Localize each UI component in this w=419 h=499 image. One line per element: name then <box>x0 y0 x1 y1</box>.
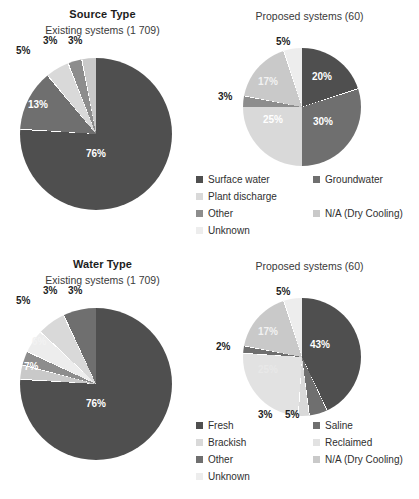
legend-item-unknown[interactable]: Unknown <box>196 471 250 482</box>
legend-item-na-dry-cooling[interactable]: N/A (Dry Cooling) <box>313 454 403 465</box>
legend-item-plant-discharge[interactable]: Plant discharge <box>196 191 277 202</box>
slice-label-unknown: 3% <box>68 36 82 46</box>
slice-label-groundwater: 13% <box>28 100 48 110</box>
slice-label-plant-discharge-proposed: 25% <box>263 115 283 125</box>
legend-item-saline[interactable]: Saline <box>313 420 353 431</box>
slice-label-other: 3% <box>43 286 57 296</box>
source-type-right-subtitle: Proposed systems (60) <box>200 10 419 22</box>
legend-swatch-icon <box>196 422 203 429</box>
water-type-proposed-pie <box>243 298 361 416</box>
legend-row: Brackish Reclaimed <box>196 437 419 454</box>
source-type-legend: Surface water Groundwater Plant discharg… <box>196 174 419 242</box>
legend-label: Plant discharge <box>208 191 277 202</box>
legend-label: Unknown <box>208 225 250 236</box>
legend-swatch-icon <box>196 176 203 183</box>
legend-swatch-icon <box>313 176 320 183</box>
slice-label-fresh: 76% <box>86 399 106 409</box>
slice-label-na-dry-cooling-proposed: 17% <box>258 77 278 87</box>
legend-row: Fresh Saline <box>196 420 419 437</box>
legend-item-other[interactable]: Other <box>196 208 233 219</box>
slice-label-na-dry-cooling-proposed: 17% <box>258 327 278 337</box>
slice-label-surface-water: 76% <box>86 149 106 159</box>
slice-label-other: 3% <box>43 36 57 46</box>
legend-row: Plant discharge <box>196 191 419 208</box>
legend-label: Other <box>208 454 233 465</box>
legend-label: Unknown <box>208 471 250 482</box>
legend-swatch-icon <box>196 210 203 217</box>
legend-swatch-icon <box>313 422 320 429</box>
slice-label-brackish: 6% <box>32 337 46 347</box>
slice-label-reclaimed-proposed: 25% <box>258 365 278 375</box>
source-type-left-subtitle: Existing systems (1 709) <box>0 24 205 36</box>
legend-row: Other N/A (Dry Cooling) <box>196 454 419 471</box>
legend-row: Other N/A (Dry Cooling) <box>196 208 419 225</box>
slice-label-groundwater-proposed: 30% <box>313 117 333 127</box>
legend-label: Saline <box>325 420 353 431</box>
legend-label: Reclaimed <box>325 437 372 448</box>
legend-swatch-icon <box>313 210 320 217</box>
water-type-left-subtitle: Existing systems (1 709) <box>0 274 205 286</box>
slice-label-unknown-proposed: 5% <box>276 37 290 47</box>
legend-label: N/A (Dry Cooling) <box>325 454 403 465</box>
legend-label: Brackish <box>208 437 246 448</box>
slice-label-saline-proposed: 5% <box>285 410 299 420</box>
legend-label: Fresh <box>208 420 234 431</box>
source-type-title: Source Type <box>0 8 205 20</box>
source-type-proposed-pie <box>243 48 361 166</box>
pie-slice-separators <box>20 58 172 210</box>
legend-item-fresh[interactable]: Fresh <box>196 420 234 431</box>
legend-swatch-icon <box>196 456 203 463</box>
legend-swatch-icon <box>196 193 203 200</box>
legend-row: Unknown <box>196 471 419 488</box>
legend-label: Surface water <box>208 174 270 185</box>
legend-item-surface-water[interactable]: Surface water <box>196 174 270 185</box>
legend-item-unknown[interactable]: Unknown <box>196 225 250 236</box>
slice-label-unknown: 3% <box>68 286 82 296</box>
legend-swatch-icon <box>313 456 320 463</box>
pie-slice-separators <box>20 308 172 460</box>
slice-label-unknown-proposed: 5% <box>276 287 290 297</box>
water-type-title: Water Type <box>0 258 205 270</box>
legend-swatch-icon <box>196 473 203 480</box>
slice-label-plant-discharge: 5% <box>16 46 30 56</box>
legend-swatch-icon <box>313 439 320 446</box>
slice-label-fresh-proposed: 43% <box>310 340 330 350</box>
pie-slice-separators <box>243 298 361 416</box>
slice-label-saline: 7% <box>24 362 38 372</box>
source-type-existing-pie <box>20 58 172 210</box>
slice-label-other-proposed: 2% <box>216 342 230 352</box>
legend-row: Unknown <box>196 225 419 242</box>
slice-label-surface-water-proposed: 20% <box>312 72 332 82</box>
legend-item-brackish[interactable]: Brackish <box>196 437 246 448</box>
legend-label: Groundwater <box>325 174 383 185</box>
pie-slice-separators <box>243 48 361 166</box>
legend-item-other[interactable]: Other <box>196 454 233 465</box>
water-type-right-subtitle: Proposed systems (60) <box>200 260 419 272</box>
legend-item-reclaimed[interactable]: Reclaimed <box>313 437 372 448</box>
legend-swatch-icon <box>196 227 203 234</box>
legend-item-groundwater[interactable]: Groundwater <box>313 174 383 185</box>
legend-label: N/A (Dry Cooling) <box>325 208 403 219</box>
water-type-existing-pie <box>20 308 172 460</box>
legend-label: Other <box>208 208 233 219</box>
legend-swatch-icon <box>196 439 203 446</box>
slice-label-other-proposed: 3% <box>218 92 232 102</box>
legend-row: Surface water Groundwater <box>196 174 419 191</box>
water-type-legend: Fresh Saline Brackish Reclaimed Other <box>196 420 419 488</box>
slice-label-brackish-proposed: 3% <box>258 410 272 420</box>
water-type-chart-block: Water Type Existing systems (1 709) Prop… <box>0 250 419 499</box>
legend-item-na-dry-cooling[interactable]: N/A (Dry Cooling) <box>313 208 403 219</box>
slice-label-reclaimed: 5% <box>16 296 30 306</box>
source-type-chart-block: Source Type Existing systems (1 709) Pro… <box>0 0 419 249</box>
